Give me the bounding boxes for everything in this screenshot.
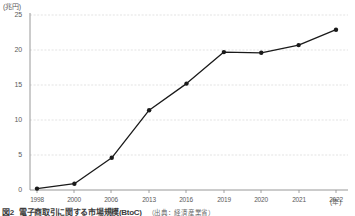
data-point-2016	[184, 81, 188, 85]
x-axis-tick-2016: 2016	[173, 196, 199, 203]
x-axis-tick-2000: 2000	[61, 196, 87, 203]
y-axis-tick-10: 10	[6, 116, 22, 123]
x-axis-tick-2019: 2019	[211, 196, 237, 203]
x-axis-tick-1998: 1998	[24, 196, 50, 203]
caption-figure-number: 図2	[2, 208, 14, 216]
y-axis-tick-0: 0	[6, 186, 22, 193]
data-line-series-1	[37, 30, 336, 189]
data-point-2019	[222, 50, 226, 54]
y-axis-tick-25: 25	[6, 11, 22, 18]
y-axis-tick-15: 15	[6, 81, 22, 88]
caption-title: 電子商取引に関する市場規模	[19, 208, 119, 216]
x-axis-tick-2013: 2013	[136, 196, 162, 203]
data-point-2013	[147, 108, 151, 112]
data-point-1998	[35, 186, 39, 190]
caption-note: (BtoC)	[119, 208, 142, 216]
data-point-2020	[259, 51, 263, 55]
data-point-2022	[334, 28, 338, 32]
x-axis-tick-2020: 2020	[248, 196, 274, 203]
x-axis-unit-label: (年)	[330, 196, 341, 206]
y-axis-tick-5: 5	[6, 151, 22, 158]
data-point-2006	[110, 156, 114, 160]
data-point-2021	[296, 43, 300, 47]
gridlines	[30, 15, 348, 155]
figure-caption: 図2電子商取引に関する市場規模(BtoC)（出典：経済産業省）	[2, 206, 215, 216]
chart-plot-area	[0, 0, 355, 216]
y-axis-tick-20: 20	[6, 46, 22, 53]
chart-figure: (兆円) 25 20 15 10 5 0	[0, 0, 355, 216]
caption-source: （出典：経済産業省）	[148, 209, 215, 216]
x-axis-tick-2006: 2006	[98, 196, 124, 203]
data-point-markers	[35, 28, 338, 191]
data-point-2000	[72, 182, 76, 186]
x-axis-tick-2021: 2021	[286, 196, 312, 203]
axes	[30, 13, 348, 190]
